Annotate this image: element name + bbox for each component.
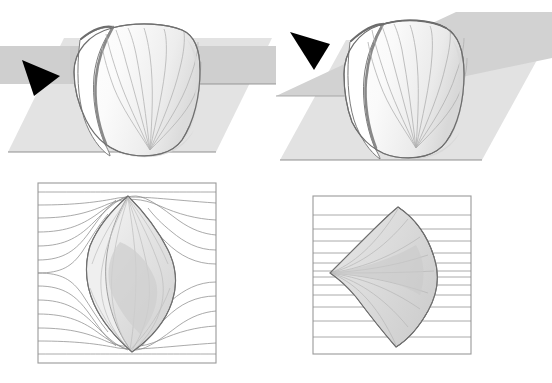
bottom-left-svg xyxy=(20,172,232,377)
panel-top-left-3d-view xyxy=(0,0,276,180)
panel-bottom-left-cross-section xyxy=(20,172,232,377)
top-left-svg xyxy=(0,0,276,180)
lobed-surface-3d xyxy=(74,24,201,157)
panel-bottom-right-cross-section xyxy=(300,185,485,360)
direction-arrow-icon xyxy=(290,32,330,70)
lobed-surface-3d xyxy=(344,20,467,159)
bottom-right-svg xyxy=(300,185,485,360)
panel-top-right-3d-view xyxy=(276,0,552,180)
figure-root: Four-panel scientific visualization: top… xyxy=(0,0,552,383)
top-right-svg xyxy=(276,0,552,180)
